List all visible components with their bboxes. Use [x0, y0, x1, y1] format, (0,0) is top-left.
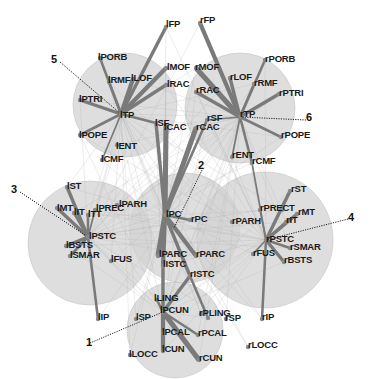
- node-label: rIP: [262, 312, 274, 322]
- node-label: rFP: [200, 15, 215, 25]
- node-label: lPC: [166, 209, 181, 219]
- node-label: lSMAR: [70, 250, 100, 260]
- node-label: lRMF: [108, 75, 130, 85]
- node-label: rSP: [225, 313, 241, 323]
- module-number-5: 5: [51, 54, 57, 65]
- node-label: rIT: [286, 215, 298, 225]
- module-number-3: 3: [11, 184, 17, 195]
- node-label: rLOCC: [248, 340, 278, 350]
- node-label: lENT: [116, 141, 137, 151]
- node-label: lFP: [166, 19, 180, 29]
- node-label: lLING: [154, 293, 178, 303]
- node-label: rENT: [232, 150, 254, 160]
- node-label: rPC: [191, 214, 207, 224]
- node-label: lIT: [74, 207, 84, 217]
- node-label: rPARC: [196, 249, 225, 259]
- node-label: lPOPE: [79, 130, 107, 140]
- node-label: rCAC: [196, 122, 219, 132]
- module-number-4: 4: [348, 212, 354, 223]
- node-label: rBSTS: [284, 255, 312, 265]
- node-label: lPSTC: [89, 231, 116, 241]
- brain-network-figure: lFPrFPlPORBlRMFlLOFlMOFlRAClPTRIlTPlPOPE…: [0, 0, 371, 379]
- node-label: lSP: [136, 312, 151, 322]
- node-label: rST: [291, 184, 306, 194]
- node-label: lRAC: [167, 79, 189, 89]
- node-label: rRAC: [196, 85, 219, 95]
- node-label: rPCAL: [198, 328, 227, 338]
- node-label: rCMF: [252, 156, 275, 166]
- module-number-6: 6: [306, 112, 312, 123]
- node-label: rTP: [240, 109, 255, 119]
- node-label: rRMF: [254, 78, 277, 88]
- node-label: lISTC: [163, 259, 186, 269]
- node-label: rPTRI: [279, 88, 303, 98]
- node-label: lFUS: [111, 254, 132, 264]
- node-label: rFUS: [253, 248, 275, 258]
- node-label: rCUN: [199, 353, 222, 363]
- node-label: rPRECT: [260, 203, 295, 213]
- module-number-2: 2: [198, 160, 204, 171]
- node-label: lCUN: [162, 344, 184, 354]
- node-label: lTP: [120, 110, 134, 120]
- node-label: lPARH: [119, 199, 147, 209]
- node-label: lIP: [98, 312, 109, 322]
- node-label: lCAC: [164, 122, 186, 132]
- node-label: lPTRI: [79, 94, 102, 104]
- node-label: rMOF: [195, 62, 219, 72]
- node-label: lST: [67, 181, 81, 191]
- node-label: rLOF: [230, 72, 252, 82]
- node-label: lMT: [57, 203, 73, 213]
- node-label: lPORB: [98, 52, 127, 62]
- node-label: rPARH: [232, 216, 261, 226]
- module-number-1: 1: [86, 337, 92, 348]
- node-label: rISTC: [190, 269, 214, 279]
- node-label: rMT: [298, 207, 315, 217]
- node-label: lCMF: [101, 154, 123, 164]
- node-label: lLOF: [131, 73, 152, 83]
- node-label: lPCUN: [160, 305, 189, 315]
- node-label: lPCAL: [162, 327, 190, 337]
- node-label: lLOCC: [129, 349, 158, 359]
- node-label: rSMAR: [290, 242, 321, 252]
- node-label: rPORB: [265, 54, 295, 64]
- node-label: lMOF: [167, 62, 190, 72]
- node-label: rPOPE: [281, 130, 310, 140]
